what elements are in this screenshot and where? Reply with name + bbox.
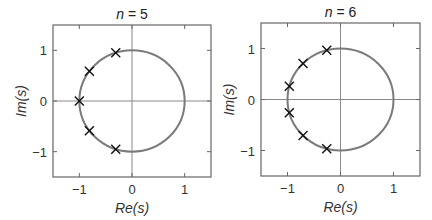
chart-title: n = 5 xyxy=(116,6,148,22)
y-axis-label: Im(s) xyxy=(221,84,237,116)
pole-marker xyxy=(299,59,308,68)
x-tick-label: 0 xyxy=(128,182,135,197)
x-tick-label: 0 xyxy=(337,181,344,196)
pole-plot-figure: −101−101n = 5Re(s)Im(s)−101−101n = 6Re(s… xyxy=(0,0,432,220)
x-tick-label: −1 xyxy=(72,182,87,197)
x-axis-label: Re(s) xyxy=(323,199,357,215)
x-tick-label: 1 xyxy=(181,182,188,197)
pole-marker xyxy=(85,67,94,76)
y-tick-label: −1 xyxy=(240,144,255,159)
pole-marker xyxy=(299,131,308,140)
chart-title: n = 6 xyxy=(325,4,357,20)
chart-panel-2: −101−101n = 6Re(s)Im(s) xyxy=(221,4,420,215)
y-tick-label: 0 xyxy=(248,93,255,108)
y-tick-label: 1 xyxy=(40,43,47,58)
pole-marker xyxy=(85,126,94,135)
y-tick-label: 0 xyxy=(40,94,47,109)
x-tick-label: −1 xyxy=(280,181,295,196)
x-tick-label: 1 xyxy=(390,181,397,196)
y-axis-label: Im(s) xyxy=(13,85,29,117)
y-tick-label: −1 xyxy=(32,145,47,160)
x-axis-label: Re(s) xyxy=(115,200,149,216)
y-tick-label: 1 xyxy=(248,42,255,57)
chart-panel-1: −101−101n = 5Re(s)Im(s) xyxy=(13,6,211,216)
